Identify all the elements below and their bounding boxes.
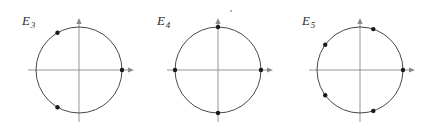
panel-e4: [167, 18, 273, 122]
panel-label-subscript: 4: [166, 20, 171, 30]
panel-label-base: E: [22, 13, 30, 28]
panel-label-base: E: [302, 13, 310, 28]
panel-label-e4: E4: [157, 14, 170, 27]
roots-of-unity-figure: E3E4E5: [0, 0, 438, 133]
root-point-e3-0: [120, 68, 124, 72]
root-point-e5-1: [371, 27, 375, 31]
panel-e5: [309, 18, 415, 122]
y-axis-arrowhead: [215, 18, 220, 24]
root-point-e3-1: [55, 31, 59, 35]
panel-label-base: E: [157, 13, 165, 28]
root-point-e4-3: [216, 111, 220, 115]
root-point-e5-2: [323, 43, 327, 47]
y-axis-arrowhead: [76, 18, 81, 24]
root-point-e5-4: [371, 109, 375, 113]
panel-label-subscript: 3: [31, 20, 36, 30]
root-point-e4-1: [216, 25, 220, 29]
root-point-e4-0: [259, 68, 263, 72]
panel-e3: [28, 18, 134, 122]
stray-speck: [230, 10, 232, 12]
panel-label-e5: E5: [302, 14, 315, 27]
panel-label-subscript: 5: [311, 20, 316, 30]
root-point-e5-0: [401, 68, 405, 72]
x-axis-arrowhead: [409, 67, 415, 72]
panel-label-e3: E3: [22, 14, 35, 27]
y-axis-arrowhead: [357, 18, 362, 24]
root-point-e3-2: [55, 105, 59, 109]
x-axis-arrowhead: [267, 67, 273, 72]
root-point-e5-3: [323, 93, 327, 97]
x-axis-arrowhead: [128, 67, 134, 72]
roots-of-unity-canvas: [0, 0, 438, 133]
root-point-e4-2: [173, 68, 177, 72]
